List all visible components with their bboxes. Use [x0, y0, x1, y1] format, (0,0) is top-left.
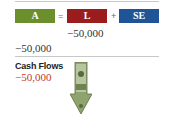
- assets-label: A: [31, 10, 38, 21]
- liabilities-label: L: [84, 10, 91, 21]
- section-rule: [15, 56, 159, 57]
- assets-box: A: [15, 9, 55, 23]
- liabilities-change: −50,000: [67, 27, 103, 39]
- assets-change: −50,000: [15, 42, 51, 54]
- equity-label: SE: [133, 10, 145, 21]
- liabilities-box: L: [67, 9, 107, 23]
- equity-box: SE: [119, 9, 159, 23]
- money-arrow-down-icon: [70, 62, 92, 114]
- cash-flows-value: −50,000: [15, 71, 51, 83]
- plus-sign: +: [111, 9, 116, 23]
- equals-sign: =: [58, 9, 63, 23]
- top-rule: [15, 1, 159, 2]
- cash-flows-title: Cash Flows: [15, 61, 63, 71]
